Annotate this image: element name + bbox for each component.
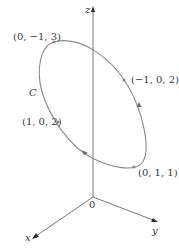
z-axis-arrowhead-icon — [91, 6, 95, 12]
point-label: (0, −1, 3) — [13, 31, 61, 42]
origin-label: 0 — [89, 199, 95, 210]
point-label: (1, 0, 2) — [22, 116, 62, 127]
point-label: (0, 1, 1) — [138, 167, 178, 178]
z-axis: z — [84, 4, 95, 197]
x-axis: x — [25, 197, 93, 243]
point-neg1-0-2: (−1, 0, 2) — [122, 74, 179, 85]
y-axis-arrowhead-icon — [151, 218, 158, 222]
y-axis: y — [93, 197, 158, 236]
curve-label: C — [29, 87, 37, 98]
x-axis-arrowhead-icon — [32, 233, 39, 239]
curve-c: C — [29, 41, 146, 168]
x-axis-label: x — [25, 232, 31, 243]
3d-curve-diagram: z x y 0 C (0, −1, 3) (−1, 0, 2) (1, 0, 2… — [0, 0, 179, 252]
point-0-1-1: (0, 1, 1) — [132, 165, 177, 178]
point-0-neg1-3: (0, −1, 3) — [13, 31, 61, 44]
point-1-0-2: (1, 0, 2) — [22, 116, 62, 127]
point-label: (−1, 0, 2) — [131, 74, 179, 85]
y-axis-label: y — [151, 225, 158, 236]
z-axis-label: z — [84, 4, 91, 15]
